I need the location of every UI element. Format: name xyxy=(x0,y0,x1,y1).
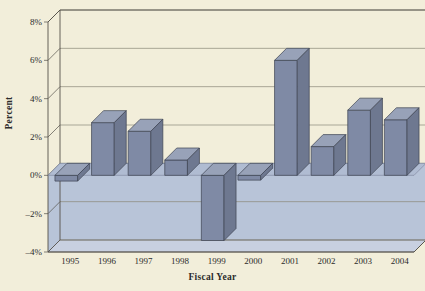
bar-front-face xyxy=(348,110,371,175)
y-tick-label: 0% xyxy=(8,171,42,180)
x-tick-label-1997: 1997 xyxy=(126,256,162,266)
bar-side-face xyxy=(114,111,126,176)
x-tick-label-1995: 1995 xyxy=(52,256,88,266)
bar-front-face xyxy=(165,160,188,175)
bar-front-face xyxy=(201,175,224,240)
bar-front-face xyxy=(275,60,298,175)
bar-2003 xyxy=(348,98,383,175)
bar-front-face xyxy=(311,147,334,176)
plot-area xyxy=(0,0,425,291)
y-axis-title: Percent xyxy=(4,78,14,148)
y-tick-label: 8% xyxy=(8,18,42,27)
bar-front-face xyxy=(238,175,261,180)
x-tick-label-2002: 2002 xyxy=(309,256,345,266)
bar-side-face xyxy=(370,98,382,175)
bar-1997 xyxy=(128,119,163,175)
x-tick-label-1999: 1999 xyxy=(199,256,235,266)
bar-side-face xyxy=(297,48,309,175)
x-tick-label-2003: 2003 xyxy=(345,256,381,266)
bar-front-face xyxy=(55,175,78,181)
y-tick-label: –2% xyxy=(8,210,42,219)
y-tick-label: 6% xyxy=(8,56,42,65)
x-axis-title: Fiscal Year xyxy=(0,272,425,282)
bar-side-face xyxy=(407,108,419,176)
x-axis-tick-labels: 1995199619971998199920002001200220032004 xyxy=(0,256,425,270)
bar-side-face xyxy=(224,163,236,240)
bar-2001 xyxy=(275,48,310,175)
x-tick-label-2000: 2000 xyxy=(235,256,271,266)
bar-front-face xyxy=(128,131,151,175)
x-tick-label-2004: 2004 xyxy=(382,256,418,266)
bar-1996 xyxy=(92,111,127,176)
x-tick-label-2001: 2001 xyxy=(272,256,308,266)
bar-2004 xyxy=(384,108,419,176)
bar-1999 xyxy=(201,163,236,240)
x-tick-label-1996: 1996 xyxy=(89,256,125,266)
bar-chart: 8%6%4%2%0%–2%–4% 19951996199719981999200… xyxy=(0,0,425,291)
x-tick-label-1998: 1998 xyxy=(162,256,198,266)
plot-floor xyxy=(48,240,425,252)
bar-front-face xyxy=(384,120,407,176)
bar-front-face xyxy=(92,123,115,176)
